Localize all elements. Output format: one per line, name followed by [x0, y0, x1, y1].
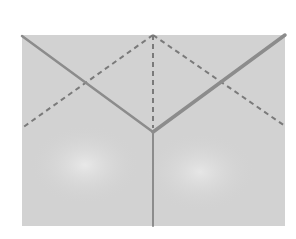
corner-diagram	[0, 0, 296, 239]
light-spot-right	[145, 132, 255, 212]
diagram-canvas	[0, 0, 296, 239]
light-spot-left	[30, 125, 140, 205]
